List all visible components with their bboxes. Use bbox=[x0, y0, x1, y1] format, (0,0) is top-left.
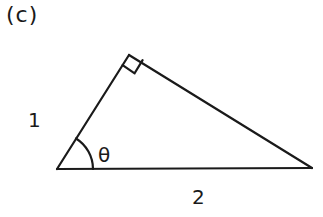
side-left bbox=[57, 55, 129, 169]
base-label-two: 2 bbox=[192, 185, 205, 209]
angle-arc bbox=[76, 139, 93, 170]
side-right bbox=[129, 55, 312, 168]
triangle-diagram bbox=[0, 0, 323, 217]
side-label-one: 1 bbox=[28, 108, 41, 132]
angle-label-theta: θ bbox=[98, 143, 110, 167]
side-base bbox=[57, 168, 312, 169]
